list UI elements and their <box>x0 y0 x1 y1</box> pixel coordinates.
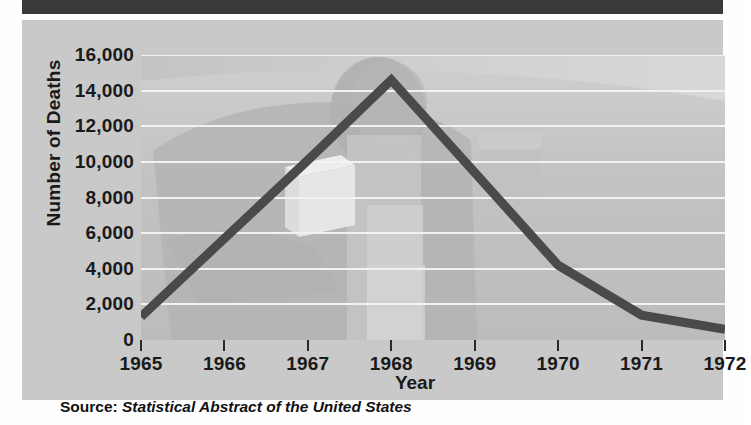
source-prefix: Source: <box>60 398 118 415</box>
y-tick-label: 4,000 <box>42 258 134 280</box>
y-axis-ticks: 16,00014,00012,00010,0008,0006,0004,0002… <box>36 55 134 340</box>
x-tick-mark <box>557 340 559 351</box>
x-axis-title: Year <box>360 372 470 394</box>
header-bar <box>22 0 723 14</box>
source-title: Statistical Abstract of the United State… <box>122 398 412 415</box>
x-tick-label: 1967 <box>263 353 353 375</box>
chart-card: Number of Deaths 16,00014,00012,00010,00… <box>22 20 723 400</box>
y-tick-label: 14,000 <box>42 80 134 102</box>
y-tick-label: 16,000 <box>42 44 134 66</box>
x-tick-mark <box>223 340 225 351</box>
x-tick-mark <box>474 340 476 351</box>
x-tick-mark <box>641 340 643 351</box>
x-tick-label: 1972 <box>680 353 751 375</box>
y-tick-label: 2,000 <box>42 293 134 315</box>
x-tick-mark <box>724 340 726 351</box>
data-series-line <box>141 55 725 340</box>
y-tick-label: 10,000 <box>42 151 134 173</box>
source-note: Source: Statistical Abstract of the Unit… <box>60 398 412 416</box>
x-tick-label: 1966 <box>179 353 269 375</box>
x-tick-mark <box>140 340 142 351</box>
x-tick-label: 1965 <box>96 353 186 375</box>
x-tick-label: 1971 <box>597 353 687 375</box>
y-tick-label: 6,000 <box>42 222 134 244</box>
x-tick-mark <box>390 340 392 351</box>
x-tick-label: 1970 <box>513 353 603 375</box>
y-tick-label: 8,000 <box>42 187 134 209</box>
x-tick-mark <box>307 340 309 351</box>
plot-area <box>141 55 725 340</box>
y-tick-label: 0 <box>42 329 134 351</box>
y-tick-label: 12,000 <box>42 115 134 137</box>
